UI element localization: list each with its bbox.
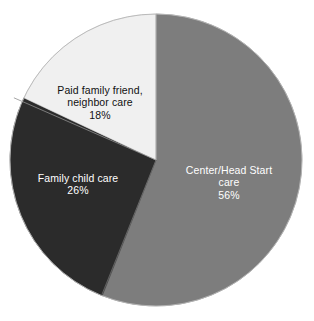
pie-chart-figure: Center/Head Start care 56% Family child … bbox=[0, 0, 314, 321]
pie-chart-svg bbox=[0, 0, 314, 321]
